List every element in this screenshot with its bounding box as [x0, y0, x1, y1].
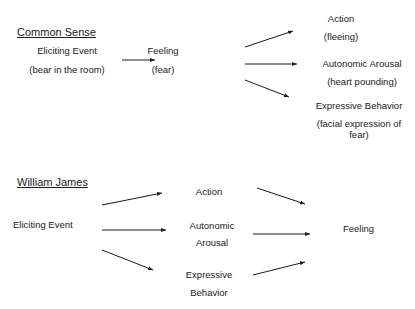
arrow-feeling-to-action: [245, 31, 293, 47]
node-eliciting-event: Eliciting Event: [37, 46, 97, 56]
node-expressive-behavior-line2: Behavior: [190, 288, 228, 298]
node-eliciting-event: Eliciting Event: [13, 220, 73, 230]
arrow-feeling-to-behavior: [245, 80, 289, 97]
node-action: Action: [328, 14, 354, 24]
node-autonomic-arousal-line2: Arousal: [196, 238, 228, 248]
node-action: Action: [196, 187, 222, 197]
arrow-event-to-action: [102, 193, 162, 205]
node-expressive-behavior-detail-2: fear): [349, 130, 369, 140]
node-feeling: Feeling: [147, 46, 178, 56]
node-autonomic-arousal: Autonomic Arousal: [322, 59, 401, 69]
node-eliciting-event-detail: (bear in the room): [29, 65, 105, 75]
node-autonomic-arousal-line1: Autonomic: [190, 221, 235, 231]
section-heading-common-sense: Common Sense: [17, 27, 96, 38]
node-feeling: Feeling: [343, 224, 374, 234]
node-autonomic-arousal-detail: (heart pounding): [327, 77, 397, 87]
node-feeling-detail: (fear): [152, 65, 175, 75]
arrow-action-to-feeling: [257, 188, 305, 204]
node-expressive-behavior-detail-1: (facial expression of: [317, 119, 401, 129]
node-expressive-behavior: Expressive Behavior: [316, 101, 403, 111]
arrow-event-to-behavior: [102, 250, 153, 270]
section-heading-william-james: William James: [17, 177, 88, 188]
node-action-detail: (fleeing): [324, 32, 358, 42]
arrow-behavior-to-feeling: [253, 262, 305, 275]
node-expressive-behavior-line1: Expressive: [186, 270, 232, 280]
